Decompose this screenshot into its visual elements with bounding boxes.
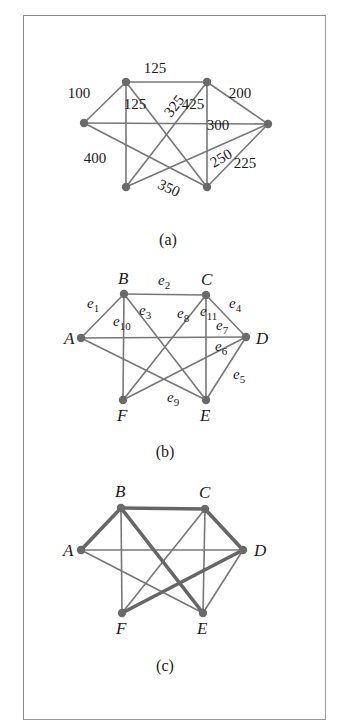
edge-weight-label: 125 [124,96,147,112]
edge-name-label-e8: e8 [177,305,190,324]
edge-name-label-e5: e5 [233,366,246,385]
edge-weight-label: 425 [182,96,205,112]
edge-weight-label: 100 [68,85,91,101]
edge-name-label-e4: e4 [229,295,242,314]
edge-name-label-e7: e7 [216,317,229,336]
edge-C-E [203,509,205,613]
graph-figures: 100125200300400125325425250225350 ABCDEF… [0,0,338,722]
edge-B-C [124,294,206,295]
edge-B-C [121,508,205,509]
vertex-label-E: E [199,406,211,425]
edge-weight-label: 200 [229,85,252,101]
vertex-A [80,119,88,127]
vertex-C [203,78,211,86]
vertex-E [203,183,211,191]
vertex-label-A: A [62,541,74,560]
edge-name-label-e6: e6 [215,338,228,357]
edge-name-label-e11: e11 [200,303,217,322]
edge-weight-label: 225 [234,155,257,171]
edge-weight-label: 300 [207,117,230,133]
edge-D-F [122,550,243,613]
vertex-label-F: F [116,406,128,425]
edge-A-B [81,508,121,550]
edge-name-label-e10: e10 [113,313,131,332]
graph-c: ABCDEF [62,482,267,638]
edge-C-D [205,509,243,550]
edge-B-F [121,508,122,613]
vertex-D [264,120,272,128]
vertex-A [77,334,85,342]
edge-B-F [123,294,124,400]
edge-weight-label: 400 [84,150,107,166]
vertex-label-B: B [115,482,126,501]
vertex-label-C: C [199,483,211,502]
edge-B-E [121,508,203,613]
vertex-label-F: F [115,619,127,638]
caption-b: (b) [135,443,195,461]
vertex-B [122,78,130,86]
vertex-E [202,396,210,404]
edge-A-E [81,338,206,400]
caption-c: (c) [135,657,195,675]
caption-a: (a) [138,231,198,249]
vertex-C [201,505,209,513]
vertex-label-C: C [201,270,213,289]
vertex-B [120,290,128,298]
graph-b: ABCDEFe1e2e3e4e5e6e7e8e9e10e11 [63,269,269,425]
graph-a: 100125200300400125325425250225350 [68,60,272,200]
edge-name-label-e3: e3 [139,302,152,321]
vertex-label-A: A [63,329,75,348]
vertex-label-E: E [196,619,208,638]
vertex-F [119,396,127,404]
vertex-F [122,183,130,191]
vertex-D [242,333,250,341]
vertex-F [118,609,126,617]
edge-A-B [84,82,126,123]
vertex-label-D: D [255,329,269,348]
edge-weight-label: 350 [155,176,182,200]
vertex-E [199,609,207,617]
vertex-C [202,291,210,299]
edge-name-label-e1: e1 [87,295,99,314]
edge-weight-label: 125 [144,60,167,76]
edge-name-label-e2: e2 [158,272,170,291]
vertex-D [239,546,247,554]
vertex-label-D: D [253,541,267,560]
vertex-B [117,504,125,512]
vertex-A [77,546,85,554]
vertex-label-B: B [118,269,129,288]
edge-name-label-e9: e9 [167,389,180,408]
